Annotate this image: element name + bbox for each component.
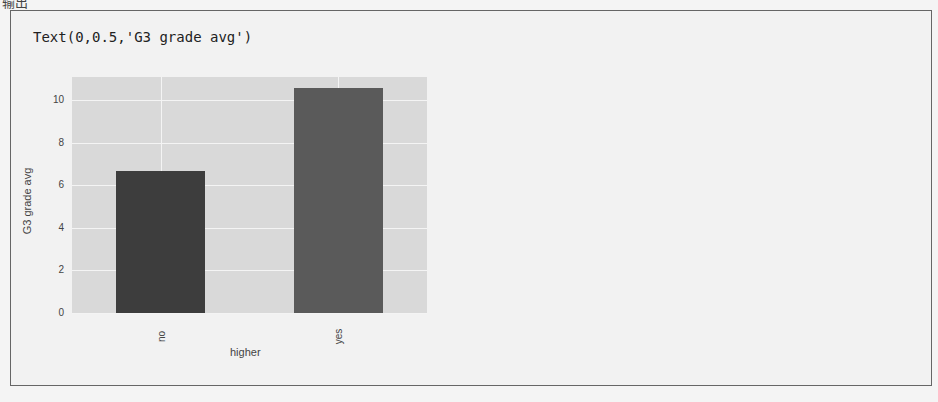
output-text: Text(0,0.5,'G3 grade avg') (33, 29, 252, 45)
y-tick-label: 6 (44, 179, 64, 190)
bar-yes (294, 88, 383, 313)
y-tick-label: 10 (44, 94, 64, 105)
y-tick-label: 8 (44, 137, 64, 148)
x-tick-label: no (155, 327, 166, 347)
y-axis-label: G3 grade avg (21, 156, 33, 246)
plot-area (72, 77, 427, 313)
y-tick-label: 2 (44, 264, 64, 275)
h-gridline (72, 313, 427, 314)
x-axis-label: higher (230, 346, 261, 358)
x-tick-label: yes (333, 327, 344, 347)
bar-no (116, 171, 205, 313)
y-tick-label: 4 (44, 222, 64, 233)
y-tick-label: 0 (44, 307, 64, 318)
